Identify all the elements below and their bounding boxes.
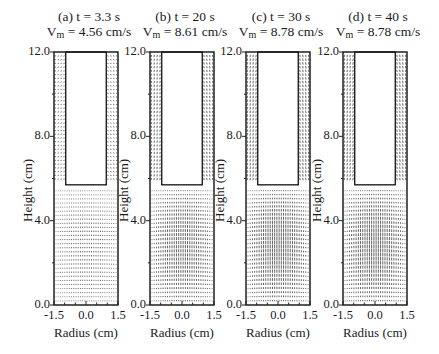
ytick-12: 12.0	[18, 45, 50, 57]
xtick-neg: -1.5	[135, 309, 165, 321]
ytick-8: 8.0	[210, 129, 242, 141]
ytick-12: 12.0	[307, 45, 339, 57]
panel-b: (b) t = 20 s Vm = 8.61 cm/s 12.0 8.0 4.0…	[96, 0, 206, 354]
panel-c: (c) t = 30 s Vm = 8.78 cm/s 12.0 8.0 4.0…	[192, 0, 302, 354]
xtick-pos: 1.5	[392, 309, 422, 321]
y-axis-label: Height (cm)	[116, 159, 132, 222]
ytick-12: 12.0	[114, 45, 146, 57]
y-axis-label: Height (cm)	[309, 159, 325, 222]
x-axis-label: Radius (cm)	[330, 325, 420, 341]
y-axis-label: Height (cm)	[20, 159, 36, 222]
ytick-8: 8.0	[18, 129, 50, 141]
panel-title: (d) t = 40 s Vm = 8.78 cm/s	[313, 9, 439, 42]
vector-field-plot	[343, 52, 407, 305]
xtick-neg: -1.5	[328, 309, 358, 321]
xtick-neg: -1.5	[39, 309, 69, 321]
vm-label: Vm = 8.78 cm/s	[313, 24, 439, 42]
xtick-neg: -1.5	[231, 309, 261, 321]
ytick-12: 12.0	[210, 45, 242, 57]
xtick-zero: 0.0	[360, 309, 390, 321]
panel-d: (d) t = 40 s Vm = 8.78 cm/s 12.0 8.0 4.0…	[289, 0, 399, 354]
y-axis-label: Height (cm)	[212, 159, 228, 222]
ytick-8: 8.0	[307, 129, 339, 141]
panel-a: (a) t = 3.3 s Vm = 4.56 cm/s 12.0 8.0 4.…	[0, 0, 110, 354]
time-label: (d) t = 40 s	[313, 9, 439, 24]
ytick-8: 8.0	[114, 129, 146, 141]
